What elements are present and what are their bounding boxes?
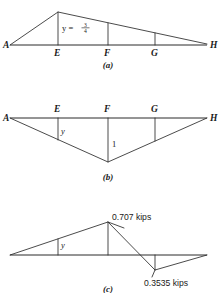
figure-container: A E F G H y = 3 4 (a) A E F G H y 1 (b) (0, 0, 221, 293)
panel-c-influence-outline (10, 222, 207, 270)
panel-a-influence-outline (10, 12, 207, 45)
panel-a-label-G: G (151, 48, 158, 58)
panel-b: A E F G H y 1 (b) (2, 104, 218, 182)
panel-b-ordinate-label-y: y (60, 126, 65, 136)
panel-b-label-H: H (209, 113, 218, 123)
panel-a-y-equals: y = (62, 23, 73, 33)
panel-a-label-F: F (103, 48, 111, 58)
panel-c: y 0.707 kips 0.3535 kips (c) (10, 212, 207, 293)
panel-a: A E F G H y = 3 4 (a) (2, 12, 218, 70)
panel-a-ordinate-annotation: y = 3 4 (62, 22, 90, 35)
panel-b-label-F: F (103, 104, 111, 114)
panel-c-dip-label: 0.3535 kips (144, 278, 188, 288)
panel-b-ordinate-label-unit: 1 (112, 139, 116, 149)
panel-a-caption: (a) (103, 60, 114, 70)
panel-c-dip-leader (152, 270, 155, 277)
panel-a-label-H: H (209, 40, 218, 50)
panel-b-influence-outline (10, 118, 207, 162)
panel-c-ordinate-label-y: y (60, 240, 65, 250)
panel-b-caption: (b) (103, 172, 114, 182)
panel-b-label-A: A (2, 113, 9, 123)
influence-line-figure: A E F G H y = 3 4 (a) A E F G H y 1 (b) (0, 0, 221, 293)
panel-a-label-E: E (53, 48, 60, 58)
panel-c-caption: (c) (103, 284, 113, 293)
panel-c-peak-label: 0.707 kips (112, 212, 151, 222)
panel-a-fraction-numerator: 3 (84, 22, 87, 28)
panel-b-label-G: G (151, 104, 158, 114)
panel-a-label-A: A (2, 40, 9, 50)
panel-b-label-E: E (53, 104, 60, 114)
panel-a-fraction-denominator: 4 (84, 28, 87, 34)
